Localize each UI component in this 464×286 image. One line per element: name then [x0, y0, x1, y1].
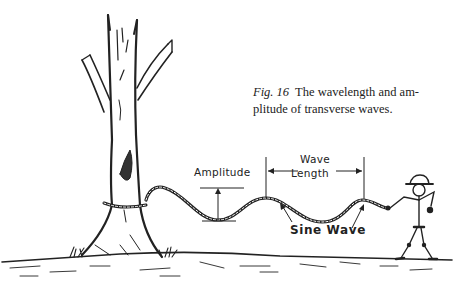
wave-length-label-line-1: Wave — [300, 153, 330, 165]
caption-line-2: plitude of transverse waves. — [253, 102, 393, 116]
amplitude-label: Amplitude — [194, 166, 251, 178]
sine-wave-label: Sine Wave — [290, 223, 366, 237]
figure-caption: Fig. 16The wavelength and am- plitude of… — [253, 84, 453, 118]
wave-length-label-line-2: Length — [291, 167, 329, 179]
tree — [70, 15, 177, 257]
transverse-wave-illustration: Fig. 16The wavelength and am- plitude of… — [0, 0, 464, 286]
rope — [104, 187, 391, 222]
caption-line-1: The wavelength and am- — [295, 85, 419, 99]
stick-figure-person — [390, 175, 437, 259]
figure-number: Fig. 16 — [253, 85, 289, 99]
ground — [2, 252, 452, 276]
